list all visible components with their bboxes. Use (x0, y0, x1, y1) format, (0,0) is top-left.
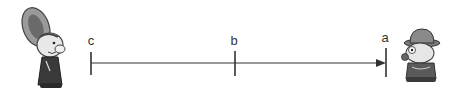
point-label-c: c (88, 34, 95, 47)
point-label-b: b (230, 34, 237, 47)
diagram: c b a (0, 0, 455, 91)
point-label-a: a (381, 31, 388, 44)
number-line (0, 0, 455, 91)
right-character-icon (396, 27, 444, 83)
arrowhead-icon (376, 59, 386, 67)
